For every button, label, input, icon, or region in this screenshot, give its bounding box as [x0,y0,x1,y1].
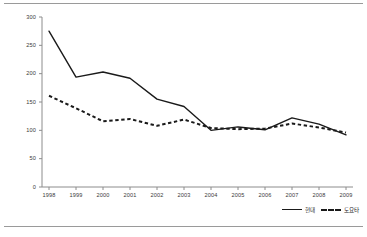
x-axis-tick-label: 2003 [171,192,197,198]
y-axis-tick-label: 300 [14,14,36,20]
chart-legend: 현대 도요타 [282,203,359,216]
x-axis-tick-label: 2002 [144,192,170,198]
legend-entry-hyundai: 현대 [282,206,315,214]
y-axis-tick-label: 150 [14,99,36,105]
y-axis-tick-label: 250 [14,42,36,48]
x-axis-tick-label: 2000 [90,192,116,198]
x-axis-tick-label: 1999 [63,192,89,198]
legend-entry-toyota: 도요타 [321,206,359,214]
x-axis-tick-label: 2006 [252,192,278,198]
x-axis-tick-label: 2004 [198,192,224,198]
legend-label-hyundai: 현대 [305,206,315,214]
y-axis-tick-label: 100 [14,127,36,133]
x-axis-tick-label: 2007 [279,192,305,198]
series-line-hyundai [49,31,346,135]
y-axis-tick-label: 50 [14,155,36,161]
chart-axes [39,17,353,190]
y-axis-tick-label: 200 [14,70,36,76]
x-axis-tick-label: 2001 [117,192,143,198]
y-axis-tick-label: 0 [14,184,36,190]
legend-label-toyota: 도요타 [344,206,359,214]
series-line-toyota [49,96,346,133]
x-axis-tick-label: 2009 [333,192,359,198]
x-axis-tick-label: 2005 [225,192,251,198]
x-axis-tick-label: 2008 [306,192,332,198]
chart-figure: 050100150200250300 199819992000200120022… [0,0,367,237]
x-axis-tick-label: 1998 [36,192,62,198]
legend-swatch-dashed-icon [321,207,341,213]
legend-swatch-solid-icon [282,207,302,213]
line-chart-plot [0,0,367,237]
